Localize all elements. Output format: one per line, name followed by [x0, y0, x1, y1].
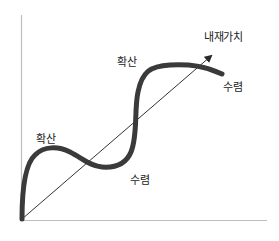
convergence-label-2: 수렴	[223, 82, 242, 93]
convergence-label-1: 수렴	[130, 175, 149, 186]
intrinsic-value-label: 내재가치	[204, 32, 242, 43]
divergence-label-1: 확산	[36, 134, 55, 145]
divergence-label-2: 확산	[117, 57, 136, 68]
